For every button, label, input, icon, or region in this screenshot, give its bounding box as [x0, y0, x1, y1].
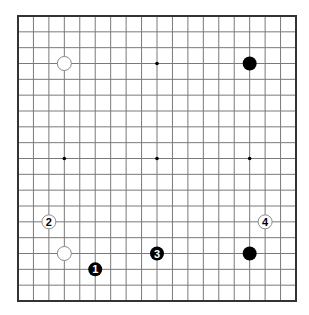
- hoshi-dot: [63, 157, 67, 161]
- white-stone: [57, 57, 71, 71]
- move-number: 3: [154, 248, 160, 260]
- hoshi-dot: [155, 62, 159, 66]
- black-stone-1: 1: [88, 262, 102, 276]
- go-board-diagram: 1234: [0, 0, 309, 315]
- white-stone-4: 4: [258, 215, 272, 229]
- move-number: 4: [262, 216, 269, 228]
- white-stone-2: 2: [42, 215, 56, 229]
- hoshi-dot: [248, 157, 252, 161]
- black-stone: [243, 247, 257, 261]
- hoshi-dot: [155, 157, 159, 161]
- white-stone: [57, 247, 71, 261]
- move-number: 1: [92, 263, 98, 275]
- black-stone-3: 3: [150, 247, 164, 261]
- black-stone: [243, 57, 257, 71]
- move-number: 2: [46, 216, 52, 228]
